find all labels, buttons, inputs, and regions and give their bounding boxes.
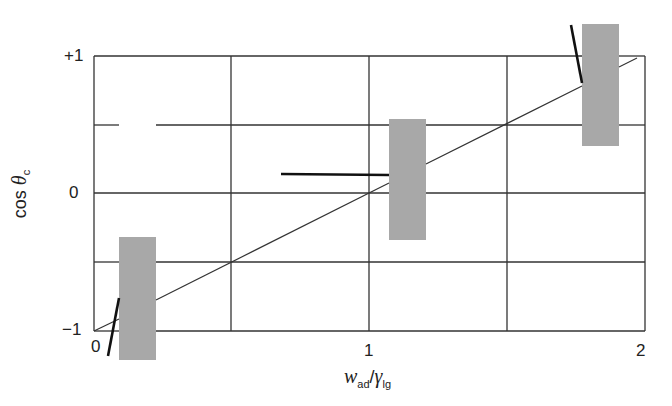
x-tick-zero: 0 <box>91 337 100 357</box>
x-axis-label: wad/γlg <box>344 365 391 390</box>
y-tick-zero: 0 <box>69 183 78 203</box>
y-tick-plus1: +1 <box>64 46 83 66</box>
chart-canvas <box>0 0 672 406</box>
tangent-segments <box>108 25 582 356</box>
cos-theta-line <box>94 58 637 331</box>
shaded-bar-high <box>582 24 619 146</box>
x-tick-one: 1 <box>364 341 373 361</box>
shaded-bar-mid <box>389 119 426 240</box>
shaded-bar-low <box>119 237 156 360</box>
x-tick-two: 2 <box>636 341 645 361</box>
y-tick-minus1: −1 <box>62 320 81 340</box>
y-axis-label: cos θc <box>8 170 33 218</box>
